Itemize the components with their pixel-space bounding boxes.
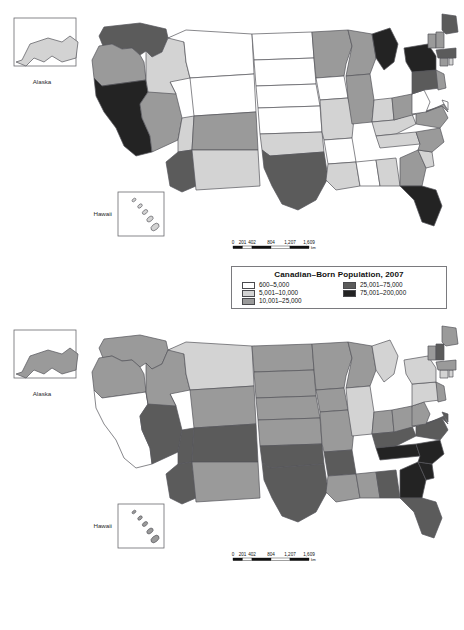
map-canvas-bottom: AlaskaHawaii02014028041,2071,609km [0, 312, 464, 622]
scale-unit-label: km [311, 246, 316, 250]
state-sd [254, 58, 316, 86]
state-nd [252, 344, 314, 372]
scale-tick: 201 [239, 240, 247, 245]
choropleth-map-bottom: AlaskaHawaii02014028041,2071,609km [0, 312, 464, 622]
inset-box-hawaii [118, 504, 164, 548]
state-az [166, 462, 196, 504]
state-al [376, 470, 400, 498]
legend-item-label: 5,001–10,000 [259, 290, 298, 296]
state-co [192, 424, 258, 462]
state-mn [312, 30, 352, 78]
state-vt [428, 346, 436, 360]
state-la [326, 162, 360, 190]
state-nc [416, 128, 444, 152]
legend-item-label: 25,001–75,000 [360, 282, 403, 288]
state-ne [256, 84, 320, 108]
state-ri [449, 370, 453, 377]
legend-item-label: 10,001–25,000 [259, 298, 302, 304]
scale-unit-label: km [311, 558, 316, 562]
inset-box-hawaii [118, 192, 164, 236]
legend-swatch [242, 282, 255, 289]
state-wi [346, 30, 376, 76]
legend-column-2: 25,001–75,00075,001–200,000 [343, 282, 436, 305]
inset-label-hawaii: Hawaii [93, 210, 112, 217]
inset-label-alaska: Alaska [33, 78, 52, 85]
scale-tick: 804 [267, 240, 275, 245]
state-ne [256, 396, 320, 420]
state-sd [254, 370, 316, 398]
legend-population-2007: Canadian–Born Population, 2007 600–5,000… [231, 266, 447, 309]
legend-swatch [242, 290, 255, 297]
scale-tick: 0 [232, 552, 235, 557]
legend-item: 75,001–200,000 [343, 290, 436, 297]
scale-tick: 804 [267, 552, 275, 557]
legend-title: Canadian–Born Population, 2007 [232, 271, 446, 279]
state-ia [316, 388, 348, 412]
legend-item-label: 600–5,000 [259, 282, 289, 288]
state-nh [436, 344, 444, 360]
state-me [442, 14, 458, 34]
scale-tick: 1,609 [303, 552, 315, 557]
state-al [376, 158, 400, 186]
legend-swatch [242, 298, 255, 305]
choropleth-map-top: AlaskaHawaii02014028041,2071,609km [0, 0, 464, 310]
state-pa [412, 382, 440, 406]
state-az [166, 150, 196, 192]
state-co [192, 112, 258, 150]
state-fl [400, 498, 442, 538]
state-ma [436, 360, 456, 370]
map-panel-population-change: AlaskaHawaii02014028041,2071,609km Chang… [0, 312, 464, 622]
legend-item: 25,001–75,000 [343, 282, 436, 289]
scale-tick: 201 [239, 552, 247, 557]
state-vt [428, 34, 436, 48]
state-nm [192, 462, 260, 502]
legend-columns: 600–5,0005,001–10,00010,001–25,00025,001… [232, 282, 446, 305]
inset-label-hawaii: Hawaii [93, 522, 112, 529]
scale-tick: 402 [248, 552, 256, 557]
state-mn [312, 342, 352, 390]
state-wy [190, 386, 256, 428]
scale-tick: 402 [248, 240, 256, 245]
state-wy [190, 74, 256, 116]
scale-bar: 02014028041,2071,609km [232, 240, 316, 250]
state-nm [192, 150, 260, 190]
state-nc [416, 440, 444, 464]
state-wi [346, 342, 376, 388]
scale-tick: 1,207 [284, 552, 296, 557]
state-nd [252, 32, 314, 60]
state-ct [440, 58, 448, 66]
state-ks [258, 418, 322, 446]
legend-item: 5,001–10,000 [242, 290, 335, 297]
state-tx [262, 150, 328, 210]
state-me [442, 326, 458, 346]
scale-bar: 02014028041,2071,609km [232, 552, 316, 562]
legend-swatch [343, 282, 356, 289]
legend-item: 600–5,000 [242, 282, 335, 289]
legend-item-label: 75,001–200,000 [360, 290, 406, 296]
legend-item: 10,001–25,000 [242, 298, 335, 305]
state-nj [436, 382, 446, 402]
state-tx [262, 462, 328, 522]
state-fl [400, 186, 442, 226]
map-panel-population-2007: AlaskaHawaii02014028041,2071,609km Canad… [0, 0, 464, 310]
state-ia [316, 76, 348, 100]
state-ct [440, 370, 448, 378]
state-nh [436, 32, 444, 48]
state-nj [436, 70, 446, 90]
state-in [372, 98, 394, 122]
state-ks [258, 106, 322, 134]
state-ri [449, 58, 453, 65]
legend-column-1: 600–5,0005,001–10,00010,001–25,000 [242, 282, 335, 305]
state-ar [324, 450, 356, 476]
scale-tick: 1,207 [284, 240, 296, 245]
scale-tick: 1,609 [303, 240, 315, 245]
state-ma [436, 48, 456, 58]
state-mi [372, 340, 398, 382]
inset-label-alaska: Alaska [33, 390, 52, 397]
scale-tick: 0 [232, 240, 235, 245]
state-la [326, 474, 360, 502]
state-in [372, 410, 394, 434]
map-canvas-top: AlaskaHawaii02014028041,2071,609km [0, 0, 464, 310]
state-mi [372, 28, 398, 70]
legend-swatch [343, 290, 356, 297]
